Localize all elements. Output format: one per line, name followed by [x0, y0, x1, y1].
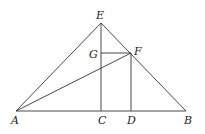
geometry-diagram: E G F A C D B — [0, 0, 205, 134]
label-G: G — [89, 48, 98, 61]
label-D: D — [126, 114, 136, 127]
label-F: F — [133, 45, 142, 58]
label-B: B — [183, 114, 192, 127]
segment-EB — [101, 23, 186, 111]
segment-AF — [16, 53, 131, 111]
label-A: A — [10, 114, 19, 127]
label-C: C — [98, 114, 107, 127]
segment-AE — [16, 23, 101, 111]
label-E: E — [95, 9, 104, 22]
